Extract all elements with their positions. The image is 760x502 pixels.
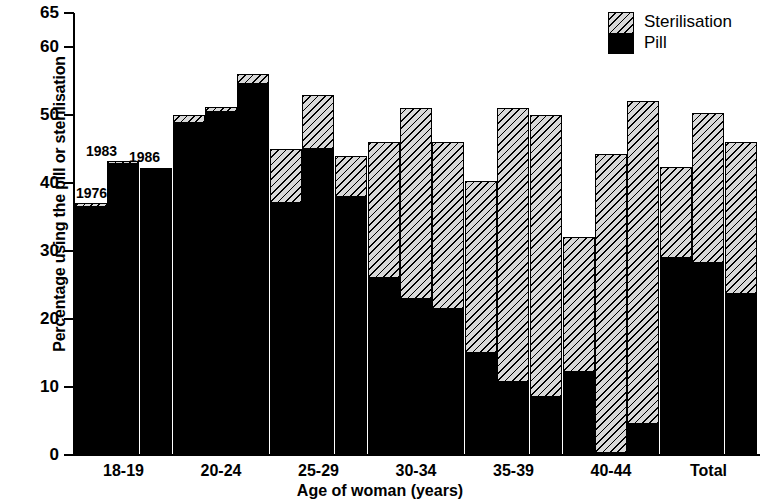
bar-segment-pill (368, 278, 400, 455)
bar-segment-sterilisation (368, 142, 400, 278)
legend-label-sterilisation: Sterilisation (644, 11, 732, 32)
bar-segment-pill (595, 453, 627, 455)
bar (530, 115, 562, 455)
x-axis-title: Age of woman (years) (0, 482, 760, 500)
x-axis-tick-label: Total (659, 462, 759, 480)
bar-segment-pill (173, 123, 205, 455)
legend-swatch-pill-icon (609, 33, 633, 53)
year-annotation-1986: 1986 (129, 150, 160, 164)
x-axis-tick-label: 25-29 (269, 462, 369, 480)
bar-segment-sterilisation (465, 181, 497, 353)
legend-label-pill: Pill (644, 32, 667, 53)
bar-segment-sterilisation (725, 142, 757, 294)
bar-segment-pill (400, 299, 432, 455)
x-axis-tick-label: 18-19 (74, 462, 174, 480)
bar (237, 74, 269, 455)
bar-group (465, 13, 562, 455)
y-axis-tick-label: 65 (0, 4, 59, 21)
y-axis-tick-label: 20 (0, 310, 59, 327)
bar-segment-pill (692, 263, 724, 455)
bar-segment-pill (140, 169, 172, 455)
y-axis-tick-label: 50 (0, 106, 59, 123)
bar (205, 107, 237, 455)
bar-segment-sterilisation (530, 115, 562, 397)
bar-segment-sterilisation (270, 149, 302, 203)
bar-segment-pill (725, 294, 757, 455)
bar-segment-pill (432, 309, 464, 455)
legend-swatch-sterilisation-icon (609, 13, 633, 33)
bar-segment-pill (465, 353, 497, 455)
bar-group (173, 13, 270, 455)
bar-segment-sterilisation (432, 142, 464, 309)
bar (725, 142, 757, 455)
bar-group (368, 13, 465, 455)
bar-segment-sterilisation (497, 108, 529, 382)
bar-group (660, 13, 757, 455)
bar (432, 142, 464, 455)
bar-segment-sterilisation (692, 113, 724, 263)
bar (173, 115, 205, 455)
bar-segment-pill (530, 397, 562, 455)
bar (660, 167, 692, 455)
bar-segment-pill (75, 207, 107, 455)
y-axis-tick-label: 60 (0, 38, 59, 55)
bar-segment-pill (107, 163, 139, 455)
bar-segment-sterilisation (627, 101, 659, 424)
bar-group (75, 13, 172, 455)
bar (692, 113, 724, 455)
bar (627, 101, 659, 455)
bar-segment-sterilisation (563, 237, 595, 372)
x-axis-tick-label: 30-34 (366, 462, 466, 480)
y-axis-title: Percentage using the pill or sterilisati… (51, 0, 69, 414)
bar-segment-sterilisation (595, 154, 627, 453)
bar (140, 168, 172, 455)
bar-segment-pill (205, 112, 237, 455)
bar-segment-sterilisation (173, 115, 205, 123)
bar-group (270, 13, 367, 455)
bar-segment-sterilisation (335, 156, 367, 197)
bar (465, 181, 497, 455)
bar-segment-sterilisation (400, 108, 432, 298)
plot-area (73, 13, 760, 455)
bar-segment-pill (660, 258, 692, 455)
bar-segment-sterilisation (660, 167, 692, 257)
y-axis-tick-label: 40 (0, 174, 59, 191)
year-annotation-1983: 1983 (86, 144, 117, 158)
bar (368, 142, 400, 455)
y-axis-tick-label: 0 (0, 446, 59, 463)
bar (107, 161, 139, 455)
x-axis-tick-label: 20-24 (171, 462, 271, 480)
bar (497, 108, 529, 455)
bar (75, 203, 107, 455)
y-axis-tick-label: 30 (0, 242, 59, 259)
bar-segment-pill (563, 372, 595, 455)
bar (563, 237, 595, 455)
legend-swatch (608, 12, 634, 54)
bar-segment-sterilisation (237, 74, 269, 84)
bar-segment-pill (270, 203, 302, 455)
bar-segment-sterilisation (302, 95, 334, 149)
bar-segment-pill (627, 424, 659, 455)
bar-segment-pill (237, 84, 269, 455)
bar-chart: Percentage using the pill or sterilisati… (0, 0, 760, 502)
bar (400, 108, 432, 455)
bar (595, 154, 627, 455)
bar (302, 95, 334, 455)
bar-segment-pill (335, 197, 367, 455)
bar (335, 156, 367, 455)
y-axis-tick-label: 10 (0, 378, 59, 395)
bar (270, 149, 302, 455)
bar-group (563, 13, 660, 455)
x-axis-tick-label: 40-44 (561, 462, 661, 480)
legend: Sterilisation Pill (608, 10, 758, 56)
x-axis-tick-label: 35-39 (464, 462, 564, 480)
year-annotation-1976: 1976 (76, 186, 107, 200)
bar-segment-pill (302, 149, 334, 455)
bar-segment-pill (497, 382, 529, 455)
